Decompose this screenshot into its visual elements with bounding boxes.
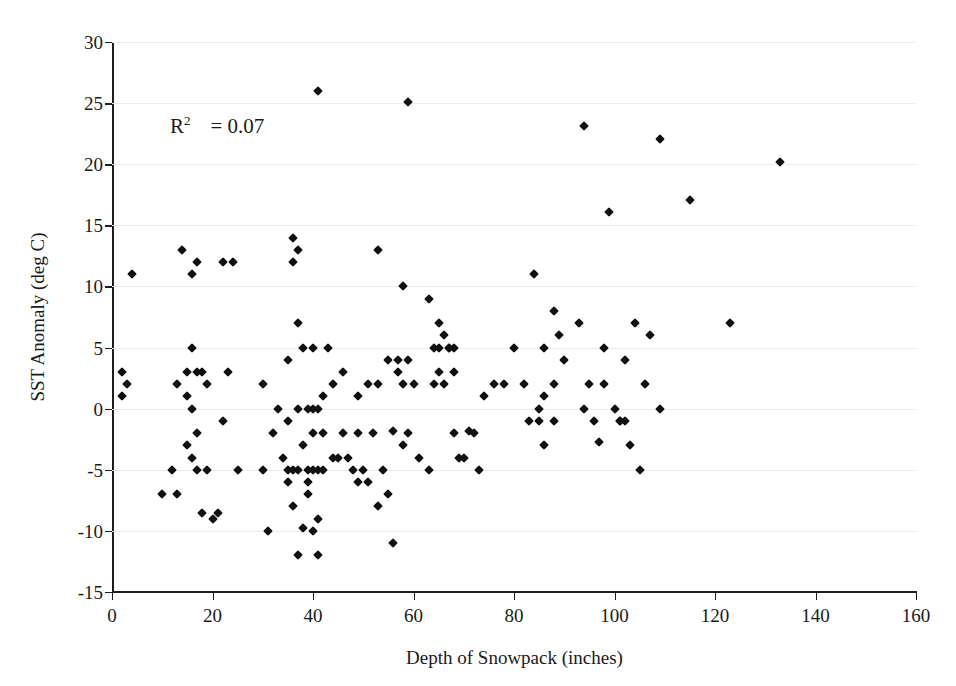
data-point	[388, 538, 398, 548]
data-point	[404, 428, 414, 438]
x-axis-title: Depth of Snowpack (inches)	[112, 648, 917, 667]
data-point	[549, 416, 559, 426]
data-point	[167, 465, 177, 475]
data-point	[177, 245, 187, 255]
gridline-horizontal	[112, 409, 916, 410]
data-point	[318, 391, 328, 401]
data-point	[539, 343, 549, 353]
data-point	[393, 367, 403, 377]
data-point	[630, 318, 640, 328]
data-point	[268, 428, 278, 438]
data-point	[273, 404, 283, 414]
data-point	[197, 508, 207, 518]
data-point	[645, 330, 655, 340]
data-point	[509, 343, 519, 353]
data-point	[378, 465, 388, 475]
x-axis-tick	[916, 592, 917, 600]
y-axis-tick	[105, 42, 112, 43]
y-axis-tick	[105, 286, 112, 287]
data-point	[584, 379, 594, 389]
y-axis-tick	[105, 409, 112, 410]
data-point	[685, 195, 695, 205]
data-point	[308, 428, 318, 438]
data-point	[353, 477, 363, 487]
data-point	[318, 428, 328, 438]
data-point	[725, 318, 735, 328]
data-point	[539, 440, 549, 450]
data-point	[579, 404, 589, 414]
data-point	[293, 318, 303, 328]
data-point	[549, 379, 559, 389]
data-point	[368, 428, 378, 438]
data-point	[192, 465, 202, 475]
scatter-plot-figure: SST Anomaly (deg C) -15-10-5051015202530…	[0, 0, 956, 686]
x-axis-tick	[816, 592, 817, 600]
data-point	[383, 355, 393, 365]
data-point	[424, 294, 434, 304]
data-point	[288, 257, 298, 267]
data-point	[283, 416, 293, 426]
y-axis-tick-label: -5	[87, 460, 103, 479]
data-point	[182, 440, 192, 450]
data-point	[348, 465, 358, 475]
y-axis-title: SST Anomaly (deg C)	[28, 42, 56, 592]
r-squared-equals: =	[211, 114, 223, 138]
x-axis-tick	[514, 592, 515, 600]
y-axis-tick	[105, 103, 112, 104]
x-axis-tick-label: 160	[902, 606, 931, 625]
data-point	[157, 489, 167, 499]
data-point	[358, 465, 368, 475]
data-point	[288, 233, 298, 243]
x-axis-tick-label: 80	[505, 606, 524, 625]
data-point	[373, 245, 383, 255]
data-point	[574, 318, 584, 328]
x-axis-tick	[715, 592, 716, 600]
x-axis-tick-label: 120	[701, 606, 730, 625]
gridline-horizontal	[112, 164, 916, 165]
y-axis-tick-label: -10	[78, 521, 103, 540]
x-axis-tick-label: 0	[107, 606, 117, 625]
data-point	[599, 343, 609, 353]
data-point	[388, 426, 398, 436]
data-point	[328, 379, 338, 389]
data-point	[187, 343, 197, 353]
data-point	[203, 465, 213, 475]
data-point	[218, 416, 228, 426]
data-point	[524, 416, 534, 426]
data-point	[127, 269, 137, 279]
x-axis-tick	[615, 592, 616, 600]
data-point	[363, 477, 373, 487]
r-squared-annotation: R2= 0.07	[170, 116, 264, 137]
data-point	[192, 257, 202, 267]
data-point	[655, 404, 665, 414]
data-point	[539, 391, 549, 401]
data-point	[313, 514, 323, 524]
data-point	[439, 379, 449, 389]
data-point	[303, 489, 313, 499]
data-point	[197, 367, 207, 377]
data-point	[589, 416, 599, 426]
data-point	[373, 501, 383, 511]
data-point	[353, 391, 363, 401]
y-axis-tick-label: -15	[78, 583, 103, 602]
data-point	[182, 391, 192, 401]
data-point	[383, 489, 393, 499]
data-point	[474, 465, 484, 475]
r-squared-superscript: 2	[184, 113, 191, 128]
data-point	[398, 440, 408, 450]
data-point	[187, 453, 197, 463]
data-point	[479, 391, 489, 401]
data-point	[258, 465, 268, 475]
data-point	[187, 269, 197, 279]
data-point	[409, 379, 419, 389]
y-axis-tick	[105, 531, 112, 532]
x-axis-tick	[414, 592, 415, 600]
gridline-horizontal	[112, 286, 916, 287]
data-point	[640, 379, 650, 389]
data-point	[599, 379, 609, 389]
data-point	[449, 428, 459, 438]
data-point	[117, 367, 127, 377]
data-point	[434, 367, 444, 377]
data-point	[233, 465, 243, 475]
data-point	[263, 526, 273, 536]
